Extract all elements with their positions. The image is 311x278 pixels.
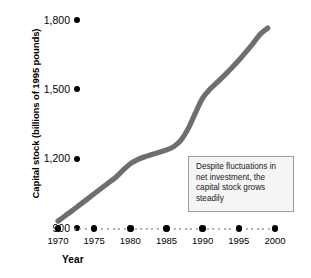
x-axis-tick-label: 2000 xyxy=(255,235,295,246)
x-axis-minor-dot xyxy=(268,228,270,230)
x-axis-major-dot xyxy=(236,225,243,232)
x-axis-minor-dot xyxy=(196,228,198,230)
x-axis-minor-dot xyxy=(151,228,153,230)
x-axis-minor-dot xyxy=(79,228,81,230)
x-axis-major-dot xyxy=(127,225,134,232)
x-axis-minor-dot xyxy=(85,228,87,230)
x-axis-major-dot xyxy=(91,225,98,232)
x-axis-minor-dot xyxy=(101,228,103,230)
x-axis-minor-dot xyxy=(118,228,120,230)
x-axis-minor-dot xyxy=(218,228,220,230)
x-axis-minor-dot xyxy=(146,228,148,230)
x-axis-minor-dot xyxy=(179,228,181,230)
x-axis-minor-dot xyxy=(190,228,192,230)
x-axis-major-dot xyxy=(272,225,279,232)
x-axis-title: Year xyxy=(62,254,84,265)
x-axis-minor-dot xyxy=(251,228,253,230)
x-axis-minor-dot xyxy=(74,228,76,230)
x-axis-tick-label: 1995 xyxy=(219,235,259,246)
capital-stock-chart: Capital stock (billions of 1995 pounds) … xyxy=(0,0,311,278)
x-axis-minor-dot xyxy=(140,228,142,230)
x-axis-minor-dot xyxy=(262,228,264,230)
x-axis-major-dot xyxy=(163,225,170,232)
annotation-callout-text: Despite fluctuations in net investment, … xyxy=(196,162,287,204)
x-axis-minor-dot xyxy=(212,228,214,230)
x-axis-tick-label: 1970 xyxy=(38,235,78,246)
x-axis-minor-dot xyxy=(68,228,70,230)
x-axis-major-dot xyxy=(55,225,62,232)
x-axis-minor-dot xyxy=(107,228,109,230)
x-axis-tick-label: 1980 xyxy=(110,235,150,246)
x-axis-minor-dot xyxy=(185,228,187,230)
x-axis-minor-dot xyxy=(229,228,231,230)
x-axis-minor-dot xyxy=(157,228,159,230)
x-axis-dotted-line xyxy=(56,225,278,232)
x-axis-minor-dot xyxy=(246,228,248,230)
x-axis-minor-dot xyxy=(63,228,65,230)
x-axis-minor-dot xyxy=(224,228,226,230)
x-axis-tick-label: 1990 xyxy=(183,235,223,246)
x-axis-minor-dot xyxy=(207,228,209,230)
annotation-callout-box: Despite fluctuations in net investment, … xyxy=(188,156,294,212)
x-axis-tick-label: 1975 xyxy=(74,235,114,246)
x-axis-minor-dot xyxy=(113,228,115,230)
x-axis-major-dot xyxy=(199,225,206,232)
x-axis-minor-dot xyxy=(124,228,126,230)
x-axis-minor-dot xyxy=(257,228,259,230)
x-axis-minor-dot xyxy=(135,228,137,230)
x-axis-tick-label: 1985 xyxy=(147,235,187,246)
x-axis-minor-dot xyxy=(174,228,176,230)
